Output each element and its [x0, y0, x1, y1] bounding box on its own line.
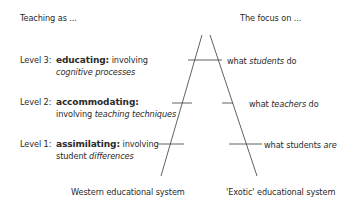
level3-desc1: involving	[112, 55, 148, 65]
level1-term: assimilating:	[56, 139, 120, 149]
level1-focus: what students are	[264, 140, 337, 150]
level1-label: Level 1:	[20, 139, 51, 149]
level2-desc2: involving teaching techniques	[56, 109, 176, 119]
level3-label: Level 3:	[20, 55, 51, 65]
level1-row: Level 1: assimilating: involving	[20, 139, 159, 149]
right-header: The focus on ...	[240, 13, 301, 23]
level2-term: accommodating:	[56, 97, 139, 107]
exotic-system-label: 'Exotic' educational system	[226, 187, 335, 197]
level1-desc2: student differences	[56, 151, 134, 161]
level1-desc1: involving	[122, 139, 158, 149]
level3-term: educating:	[56, 55, 109, 65]
level2-focus: what teachers do	[249, 99, 319, 109]
level3-desc2: cognitive processes	[56, 67, 135, 77]
western-axis-line	[161, 35, 202, 176]
left-header: Teaching as ...	[20, 13, 77, 23]
level3-row: Level 3: educating: involving	[20, 55, 148, 65]
level2-label: Level 2:	[20, 97, 51, 107]
western-system-label: Western educational system	[71, 187, 185, 197]
level3-focus: what students do	[227, 56, 297, 66]
level2-row: Level 2: accommodating:	[20, 97, 139, 107]
